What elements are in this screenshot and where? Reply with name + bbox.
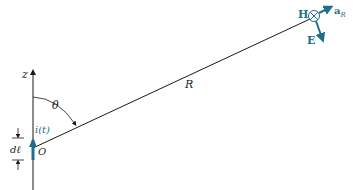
distance-label: R	[184, 78, 193, 91]
distance-line	[33, 19, 310, 148]
z-axis-label: z	[21, 68, 28, 81]
electric-field-vector	[316, 21, 322, 38]
dipole-diagram: z R θ i(t) O dℓ H aR E	[0, 0, 353, 190]
origin-label: O	[38, 146, 46, 157]
radial-unit-label: aR	[334, 5, 346, 19]
radial-unit-subscript: R	[339, 11, 346, 19]
current-label: i(t)	[35, 124, 50, 135]
magnetic-field-into-page-icon	[309, 11, 320, 22]
radial-unit-vector	[319, 8, 329, 13]
theta-label: θ	[52, 99, 59, 112]
element-length-label: dℓ	[10, 144, 21, 155]
electric-field-label: E	[307, 34, 315, 47]
current-arrow-icon	[29, 138, 37, 147]
magnetic-field-label: H	[298, 8, 308, 21]
